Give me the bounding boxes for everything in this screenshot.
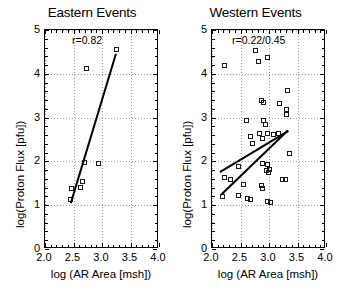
grid-layer-eastern bbox=[45, 30, 157, 247]
axis-tick bbox=[212, 135, 215, 136]
axis-tick bbox=[309, 245, 310, 248]
y-axis-title-eastern: log(Proton Flux [pfu]) bbox=[14, 121, 26, 228]
axis-tick bbox=[102, 243, 103, 247]
y-tick-label: 5 bbox=[20, 24, 40, 34]
axis-tick bbox=[322, 100, 325, 101]
axis-tick bbox=[258, 245, 259, 248]
axis-tick bbox=[131, 30, 132, 34]
axis-tick bbox=[212, 74, 216, 75]
y-axis-title-western: log(Proton Flux [pfu]) bbox=[181, 121, 193, 228]
axis-tick bbox=[68, 30, 69, 33]
axis-tick bbox=[153, 245, 154, 248]
axis-tick bbox=[212, 91, 215, 92]
axis-tick bbox=[212, 126, 215, 127]
axis-tick bbox=[322, 91, 325, 92]
axis-tick bbox=[320, 245, 321, 248]
gridline-vertical bbox=[241, 30, 242, 247]
axis-tick bbox=[322, 223, 325, 224]
axis-tick bbox=[45, 56, 48, 57]
axis-tick bbox=[326, 243, 327, 247]
axis-tick bbox=[320, 118, 324, 119]
gridline-horizontal bbox=[45, 74, 157, 75]
axis-tick bbox=[45, 109, 48, 110]
gridline-vertical bbox=[102, 30, 103, 247]
data-point-marker bbox=[256, 59, 261, 64]
axis-tick bbox=[96, 30, 97, 33]
axis-tick bbox=[153, 118, 157, 119]
axis-tick bbox=[45, 223, 48, 224]
y-tick-label: 0 bbox=[20, 243, 40, 253]
axis-tick bbox=[212, 83, 215, 84]
axis-tick bbox=[322, 39, 325, 40]
axis-tick bbox=[159, 243, 160, 247]
axis-tick bbox=[246, 30, 247, 33]
axis-tick bbox=[320, 74, 324, 75]
axis-tick bbox=[153, 249, 157, 250]
axis-tick bbox=[303, 245, 304, 248]
axis-tick bbox=[155, 83, 158, 84]
grid-layer-western bbox=[212, 30, 324, 247]
axis-tick bbox=[212, 65, 215, 66]
data-point-marker bbox=[253, 48, 258, 53]
axis-tick bbox=[309, 30, 310, 33]
axis-tick bbox=[51, 30, 52, 33]
axis-tick bbox=[153, 74, 157, 75]
axis-tick bbox=[218, 30, 219, 33]
axis-tick bbox=[62, 30, 63, 33]
axis-tick bbox=[322, 109, 325, 110]
axis-tick bbox=[322, 196, 325, 197]
axis-tick bbox=[322, 153, 325, 154]
axis-tick bbox=[153, 205, 157, 206]
axis-tick bbox=[263, 245, 264, 248]
axis-tick bbox=[148, 30, 149, 33]
axis-tick bbox=[45, 65, 48, 66]
axis-tick bbox=[322, 48, 325, 49]
axis-tick bbox=[322, 170, 325, 171]
axis-tick bbox=[212, 188, 215, 189]
axis-tick bbox=[303, 30, 304, 33]
axis-tick bbox=[212, 223, 215, 224]
axis-tick bbox=[148, 245, 149, 248]
axis-tick bbox=[320, 161, 324, 162]
axis-tick bbox=[155, 56, 158, 57]
axis-tick bbox=[212, 48, 215, 49]
x-axis-title-eastern: log (AR Area [msh]) bbox=[44, 268, 158, 280]
axis-tick bbox=[125, 30, 126, 33]
axis-tick bbox=[45, 83, 48, 84]
axis-tick bbox=[322, 188, 325, 189]
axis-tick bbox=[212, 196, 215, 197]
panel-title-western: Western Events bbox=[170, 5, 341, 20]
data-point-marker bbox=[78, 185, 83, 190]
axis-tick bbox=[56, 245, 57, 248]
axis-tick bbox=[68, 245, 69, 248]
axis-tick bbox=[280, 245, 281, 248]
axis-tick bbox=[155, 65, 158, 66]
data-point-marker bbox=[248, 197, 253, 202]
axis-tick bbox=[315, 30, 316, 33]
axis-tick bbox=[45, 170, 48, 171]
axis-tick bbox=[45, 74, 49, 75]
axis-tick bbox=[315, 245, 316, 248]
data-point-marker bbox=[285, 88, 290, 93]
axis-tick bbox=[85, 30, 86, 33]
data-point-marker bbox=[277, 101, 282, 106]
axis-tick bbox=[79, 30, 80, 33]
correlation-annotation-eastern: r=0.82 bbox=[72, 34, 102, 46]
data-point-marker bbox=[283, 177, 288, 182]
axis-tick bbox=[322, 83, 325, 84]
axis-tick bbox=[320, 249, 324, 250]
gridline-horizontal bbox=[212, 118, 324, 119]
axis-tick bbox=[155, 188, 158, 189]
axis-tick bbox=[155, 135, 158, 136]
data-point-marker bbox=[268, 200, 273, 205]
axis-tick bbox=[212, 161, 216, 162]
axis-tick bbox=[286, 245, 287, 248]
axis-tick bbox=[292, 30, 293, 33]
axis-tick bbox=[322, 65, 325, 66]
axis-tick bbox=[212, 56, 215, 57]
axis-tick bbox=[45, 153, 48, 154]
axis-tick bbox=[131, 243, 132, 247]
axis-tick bbox=[275, 245, 276, 248]
data-point-marker bbox=[287, 151, 292, 156]
axis-tick bbox=[320, 205, 324, 206]
